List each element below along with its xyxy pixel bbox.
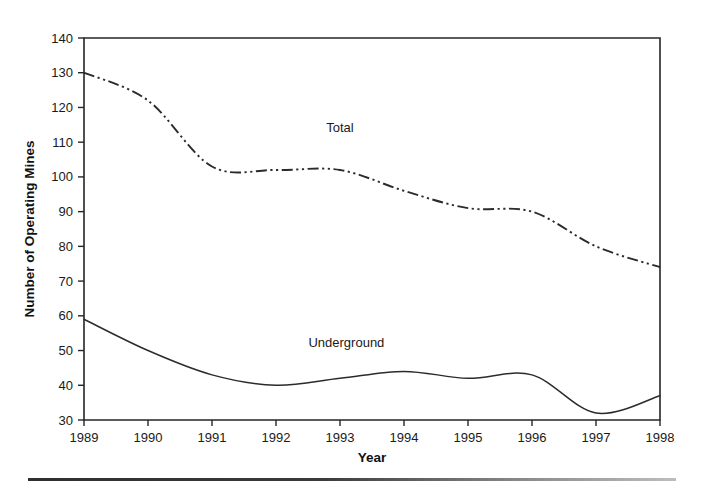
- x-axis-ticks: 1989199019911992199319941995199619971998: [70, 420, 675, 445]
- y-tick-label: 30: [59, 413, 73, 428]
- x-tick-label: 1991: [198, 430, 227, 445]
- series-group: [84, 73, 660, 414]
- x-tick-label: 1994: [390, 430, 419, 445]
- plot-axes: [84, 38, 660, 420]
- y-tick-label: 70: [59, 274, 73, 289]
- x-tick-label: 1997: [582, 430, 611, 445]
- line-chart: 30405060708090100110120130140 1989199019…: [0, 0, 705, 489]
- x-tick-label: 1989: [70, 430, 99, 445]
- y-tick-label: 120: [51, 100, 73, 115]
- footer-divider: [28, 478, 676, 481]
- series-line-total: [84, 73, 660, 267]
- y-axis-title: Number of Operating Mines: [22, 140, 37, 317]
- y-tick-label: 40: [59, 378, 73, 393]
- y-tick-label: 80: [59, 239, 73, 254]
- x-tick-label: 1998: [646, 430, 675, 445]
- y-axis-ticks: 30405060708090100110120130140: [51, 31, 84, 428]
- x-tick-label: 1993: [326, 430, 355, 445]
- series-annotations: TotalUnderground: [308, 120, 384, 350]
- figure-container: 30405060708090100110120130140 1989199019…: [0, 0, 705, 489]
- y-tick-label: 140: [51, 31, 73, 46]
- x-tick-label: 1996: [518, 430, 547, 445]
- y-tick-label: 60: [59, 308, 73, 323]
- x-tick-label: 1992: [262, 430, 291, 445]
- y-tick-label: 50: [59, 343, 73, 358]
- plot-frame: [84, 38, 660, 420]
- x-tick-label: 1995: [454, 430, 483, 445]
- y-tick-label: 130: [51, 65, 73, 80]
- series-line-underground: [84, 319, 660, 413]
- y-tick-label: 100: [51, 169, 73, 184]
- x-axis-title: Year: [358, 450, 387, 465]
- x-tick-label: 1990: [134, 430, 163, 445]
- series-annotation-total: Total: [326, 120, 354, 135]
- series-annotation-underground: Underground: [308, 335, 384, 350]
- y-tick-label: 90: [59, 204, 73, 219]
- y-tick-label: 110: [52, 135, 73, 150]
